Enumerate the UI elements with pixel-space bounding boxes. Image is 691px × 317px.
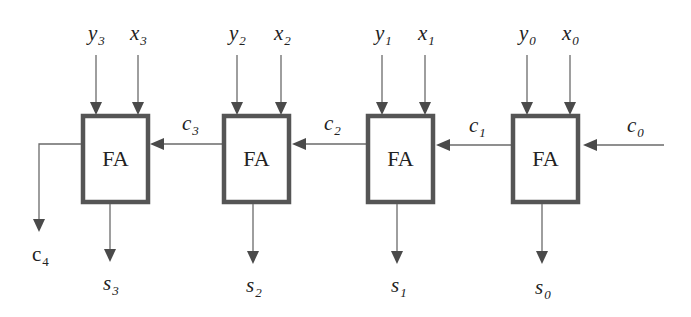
arrowhead-c2-icon [292, 138, 306, 150]
full-adder-0: FA [513, 55, 664, 264]
label-s3: s3 [103, 271, 119, 298]
arrowhead-y3-icon [90, 102, 102, 115]
label-s0: s0 [535, 275, 551, 302]
full-adder-1: FA [368, 55, 433, 264]
arrowhead-c4-icon [33, 219, 45, 232]
label-c4: c4 [32, 242, 49, 269]
arrowhead-s1-icon [391, 251, 403, 264]
label-c3: c3 [182, 111, 199, 138]
arrowhead-x0-icon [564, 102, 576, 115]
label-c1: c1 [469, 113, 486, 140]
label-c2: c2 [324, 111, 341, 138]
label-x2: x2 [273, 21, 291, 48]
arrowhead-x2-icon [275, 102, 287, 115]
arrowhead-c0-icon [583, 139, 597, 151]
label-s2: s2 [246, 273, 262, 300]
arrowhead-y1-icon [376, 102, 388, 115]
arrowhead-s2-icon [247, 251, 259, 264]
full-adder-2: FA [224, 55, 289, 264]
full-adder-3: FA [33, 55, 148, 262]
arrowhead-x1-icon [419, 102, 431, 115]
fa-label-3: FA [102, 146, 129, 171]
label-s1: s1 [391, 273, 407, 300]
arrowhead-c3-icon [150, 138, 164, 150]
label-y0: y0 [517, 21, 536, 48]
label-y1: y1 [373, 21, 392, 48]
fa-label-2: FA [243, 146, 270, 171]
arrowhead-y0-icon [521, 102, 533, 115]
fa-label-0: FA [532, 146, 559, 171]
label-x1: x1 [417, 21, 435, 48]
arrowhead-c1-icon [436, 139, 450, 151]
label-x3: x3 [129, 21, 147, 48]
ripple-carry-adder-diagram: FA FA FA [0, 0, 691, 317]
arrowhead-y2-icon [231, 102, 243, 115]
label-x0: x0 [561, 21, 579, 48]
label-y3: y3 [86, 21, 105, 48]
label-c0: c0 [627, 113, 644, 140]
arrowhead-x3-icon [132, 102, 144, 115]
arrowhead-s3-icon [104, 249, 116, 262]
label-y2: y2 [227, 21, 246, 48]
wire-c4 [39, 144, 81, 220]
fa-label-1: FA [387, 146, 414, 171]
arrowhead-s0-icon [536, 251, 548, 264]
